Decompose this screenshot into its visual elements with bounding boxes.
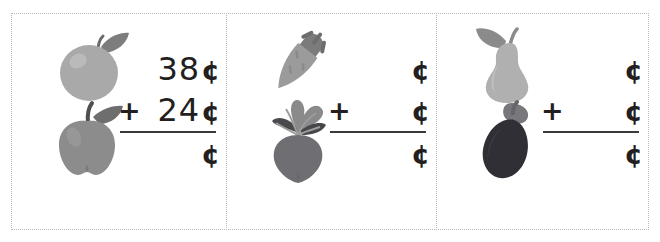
- problem-panel-2: ¢ + ¢ ¢: [226, 13, 436, 230]
- problem-3-sum-row[interactable]: ¢: [539, 133, 643, 173]
- problem-1-addend-1: 38: [157, 50, 200, 88]
- problem-1-addend-2: 24: [157, 91, 200, 129]
- cent-sign-icon: ¢: [410, 139, 430, 170]
- problem-3-addend-1-row[interactable]: ¢: [539, 49, 643, 90]
- problem-1-illustrations: [11, 13, 119, 230]
- cent-sign-icon: ¢: [623, 55, 643, 86]
- problem-1-equation: 38¢ + 24¢ ¢: [116, 49, 220, 173]
- cent-sign-icon: ¢: [200, 55, 220, 86]
- problem-2-illustrations: [226, 13, 331, 230]
- plus-sign-icon: +: [328, 90, 351, 131]
- plus-sign-icon: +: [541, 90, 564, 131]
- problem-panel-3: ¢ + ¢ ¢: [436, 13, 649, 230]
- problem-1-addend-1-row: 38¢: [116, 49, 220, 90]
- problem-2-sum-row[interactable]: ¢: [326, 133, 430, 173]
- cent-sign-icon: ¢: [200, 139, 220, 170]
- problem-3-addend-2-row[interactable]: + ¢: [539, 90, 643, 131]
- worksheet-page: 38¢ + 24¢ ¢: [0, 0, 660, 242]
- cent-sign-icon: ¢: [200, 96, 220, 127]
- problem-2-addend-2-row[interactable]: + ¢: [326, 90, 430, 131]
- problem-1-sum-row[interactable]: ¢: [116, 133, 220, 173]
- problem-1-addend-2-row: + 24¢: [116, 90, 220, 131]
- cent-sign-icon: ¢: [410, 96, 430, 127]
- cent-sign-icon: ¢: [410, 55, 430, 86]
- problem-2-equation: ¢ + ¢ ¢: [326, 49, 430, 173]
- problem-2-addend-1-row[interactable]: ¢: [326, 49, 430, 90]
- problem-3-illustrations: [436, 13, 543, 230]
- problem-panel-1: 38¢ + 24¢ ¢: [11, 13, 226, 230]
- cent-sign-icon: ¢: [623, 139, 643, 170]
- cent-sign-icon: ¢: [623, 96, 643, 127]
- problem-3-equation: ¢ + ¢ ¢: [539, 49, 643, 173]
- plus-sign-icon: +: [118, 90, 141, 131]
